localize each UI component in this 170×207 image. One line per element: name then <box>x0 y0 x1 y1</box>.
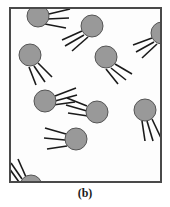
particle-circle <box>86 101 108 123</box>
figure-panel-b: (b) <box>0 0 170 207</box>
particle-circle <box>95 46 117 68</box>
particle-diagram-canvas <box>9 7 162 183</box>
particle-circle <box>65 128 87 150</box>
panel-caption: (b) <box>0 186 170 201</box>
panel-frame <box>9 7 162 183</box>
particle-circle <box>27 7 49 27</box>
particle-circle <box>34 90 56 112</box>
particle-circle <box>19 44 41 66</box>
particle-tail-line <box>47 18 69 19</box>
particle-circle <box>81 15 103 37</box>
particle-circle <box>134 99 156 121</box>
